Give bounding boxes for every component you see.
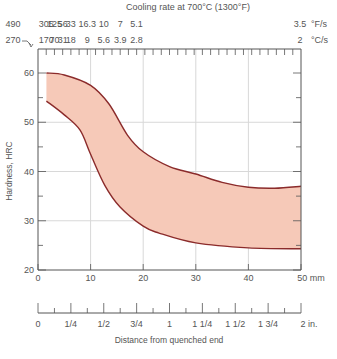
x-axis-label: Distance from quenched end xyxy=(115,335,224,345)
top-label-C: 9 xyxy=(85,35,90,45)
band-fill xyxy=(46,73,301,249)
top-label-C: 3.9 xyxy=(114,35,127,45)
x-axis-inches: 01/41/23/411 1/41 1/21 3/42 in. xyxy=(35,303,317,329)
top-label-F: 33 xyxy=(66,19,76,29)
y-tick-label: 50 xyxy=(24,117,34,127)
top-label-F: 5.1 xyxy=(130,19,143,29)
x-tick-label-in: 1/4 xyxy=(65,319,78,329)
x-tick-label-in: 1/2 xyxy=(97,319,110,329)
top-label-C: 18 xyxy=(66,35,76,45)
hardness-band xyxy=(46,73,301,249)
top-label-F: 16.3 xyxy=(79,19,97,29)
top-label-C: 270 xyxy=(5,35,20,45)
x-tick-label-in: 1 3/4 xyxy=(258,319,278,329)
y-tick-label: 40 xyxy=(24,167,34,177)
x-tick-label-mm: 40 xyxy=(243,273,253,283)
x-tick-label-in: 2 in. xyxy=(300,319,317,329)
chart-title: Cooling rate at 700°C (1300°F) xyxy=(126,2,250,12)
y-tick-label: 60 xyxy=(24,68,34,78)
top-label-C: 2 xyxy=(297,35,302,45)
top-cooling-rate-axis: 490270305170125705631331816.39105.673.95… xyxy=(5,19,328,55)
y-tick-label: 20 xyxy=(24,265,34,275)
x-tick-label-in: 1 1/4 xyxy=(192,319,212,329)
unit-F-per-s: °F/s xyxy=(311,19,328,29)
top-label-C: 5.6 xyxy=(97,35,110,45)
x-tick-label-mm: 50 mm xyxy=(297,273,325,283)
x-tick-label-mm: 0 xyxy=(35,273,40,283)
y-axis-label: Hardness, HRC xyxy=(4,141,14,201)
y-tick-label: 30 xyxy=(24,216,34,226)
x-tick-label-in: 1 1/2 xyxy=(225,319,245,329)
x-tick-label-mm: 10 xyxy=(86,273,96,283)
x-tick-label-in: 0 xyxy=(35,319,40,329)
x-tick-label-in: 1 xyxy=(167,319,172,329)
hardness-band-chart: Cooling rate at 700°C (1300°F) 490270305… xyxy=(0,0,337,359)
x-tick-label-in: 3/4 xyxy=(130,319,143,329)
unit-C-per-s: °C/s xyxy=(311,35,329,45)
top-label-F: 7 xyxy=(118,19,123,29)
x-tick-label-mm: 30 xyxy=(191,273,201,283)
top-label-C: 2.8 xyxy=(130,35,143,45)
arrow-icon xyxy=(22,41,33,47)
x-axis-mm: 01020304050 mm xyxy=(35,264,324,283)
top-label-F: 490 xyxy=(5,19,20,29)
top-label-F: 10 xyxy=(99,19,109,29)
x-tick-label-mm: 20 xyxy=(138,273,148,283)
top-label-F: 3.5 xyxy=(294,19,307,29)
